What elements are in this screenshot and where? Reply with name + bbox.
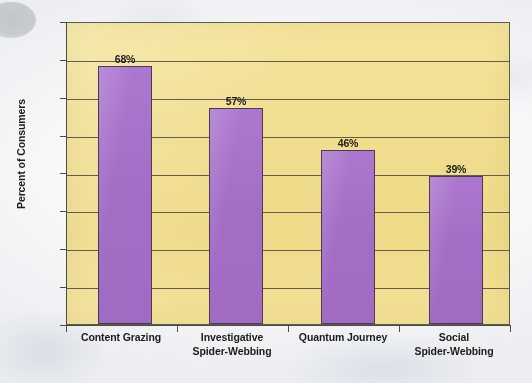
x-category-label-social-spider-webbing: Social Spider-Webbing	[389, 331, 519, 358]
bar-quantum-journey[interactable]	[321, 150, 375, 324]
x-category-line1-quantum-journey: Quantum Journey	[299, 331, 387, 343]
bar-content-grazing[interactable]	[98, 66, 152, 324]
bar-value-label-investigative-spider-webbing: 57%	[201, 95, 271, 107]
x-category-line1-social-spider-webbing: Social	[439, 331, 469, 343]
scan-artifact-blob	[0, 2, 36, 38]
bar-value-label-quantum-journey: 46%	[313, 137, 383, 149]
chart-page: Percent of Consumers 80% 70% 60% 50% 40%…	[0, 0, 532, 383]
y-axis-title: Percent of Consumers	[15, 79, 27, 229]
plot-area: 68% 57% 46% 39%	[66, 22, 510, 325]
bar-social-spider-webbing[interactable]	[429, 176, 483, 324]
bar-investigative-spider-webbing[interactable]	[209, 108, 263, 324]
x-category-line1-content-grazing: Content Grazing	[81, 331, 161, 343]
x-category-line2-investigative-spider-webbing: Spider-Webbing	[167, 345, 297, 359]
bar-value-label-social-spider-webbing: 39%	[421, 163, 491, 175]
x-category-line1-investigative-spider-webbing: Investigative	[201, 331, 263, 343]
x-category-line2-social-spider-webbing: Spider-Webbing	[389, 345, 519, 359]
y-axis-line	[66, 22, 67, 325]
bar-value-label-content-grazing: 68%	[90, 53, 160, 65]
